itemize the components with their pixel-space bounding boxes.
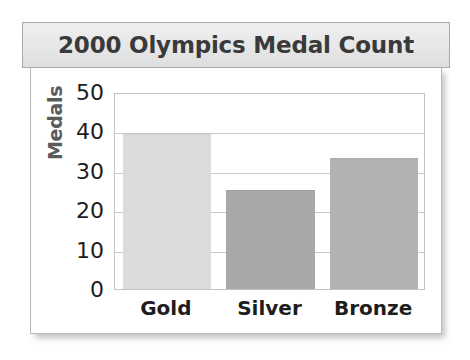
y-axis-tick-labels: 01020304050 (66, 93, 110, 290)
y-tick-label: 20 (76, 200, 104, 222)
chart-title-banner: 2000 Olympics Medal Count (22, 22, 450, 68)
plot-area (114, 93, 425, 290)
chart-screenshot: 2000 Olympics Medal Count Medals 0102030… (0, 0, 470, 360)
bar-bronze (330, 158, 419, 289)
x-tick-label: Silver (218, 296, 322, 320)
x-tick-label: Bronze (321, 296, 425, 320)
bar-series (115, 94, 424, 289)
x-axis-tick-labels: GoldSilverBronze (114, 296, 425, 326)
y-tick-label: 10 (76, 240, 104, 262)
chart-title: 2000 Olympics Medal Count (58, 32, 414, 58)
x-tick-label: Gold (114, 296, 218, 320)
y-tick-label: 50 (76, 82, 104, 104)
y-tick-label: 40 (76, 121, 104, 143)
bar-gold (123, 134, 212, 289)
y-tick-label: 30 (76, 161, 104, 183)
y-tick-label: 0 (90, 279, 104, 301)
bar-silver (226, 190, 315, 290)
y-axis-title: Medals (44, 86, 66, 160)
